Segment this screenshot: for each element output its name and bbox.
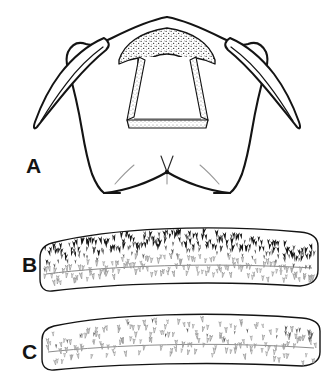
figure-plate: A B C <box>0 0 335 385</box>
apical-tubercle <box>165 170 169 174</box>
panel-label-c: C <box>22 340 37 363</box>
panel-label-b: B <box>22 253 37 276</box>
band-c-outline <box>42 314 320 370</box>
frame-rail-bottom <box>127 120 208 128</box>
illustration-canvas: A B C <box>0 0 335 385</box>
panel-label-a: A <box>26 154 41 177</box>
